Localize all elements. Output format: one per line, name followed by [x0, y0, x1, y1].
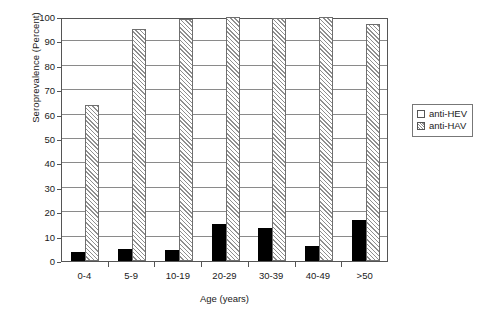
bar-anti-hav-10-19: [179, 19, 193, 261]
bar-anti-hev-30-39: [258, 228, 272, 261]
y-axis-tick-label: 70: [21, 86, 55, 95]
bar-anti-hev-20-29: [212, 224, 226, 261]
bar-series-group: [62, 19, 387, 261]
legend-label-anti-hev: anti-HEV: [429, 109, 467, 119]
y-axis-tick-label: 80: [21, 62, 55, 71]
y-axis-tick-label: 40: [21, 159, 55, 168]
x-axis-tick-mark: [201, 262, 202, 267]
y-axis-tick-label: 10: [21, 233, 55, 242]
x-axis-tick-mark: [154, 262, 155, 267]
legend: anti-HEV anti-HAV: [412, 104, 473, 137]
y-axis-tick-label: 90: [21, 37, 55, 46]
bar-anti-hav->50: [366, 24, 380, 261]
legend-swatch-icon-anti-hev: [417, 110, 425, 118]
y-axis-tick-mark: [57, 91, 61, 92]
y-axis-tick-mark: [57, 164, 61, 165]
bar-anti-hev-0-4: [71, 252, 85, 261]
chart-container: Seroprevalence (Percent) 010203040506070…: [0, 0, 490, 322]
x-axis-tick-mark: [108, 262, 109, 267]
y-axis-tick-label: 0: [21, 257, 55, 266]
bar-anti-hev-40-49: [305, 246, 319, 261]
y-axis-tick-label: 30: [21, 184, 55, 193]
bar-anti-hev-5-9: [118, 249, 132, 261]
legend-label-anti-hav: anti-HAV: [429, 121, 466, 131]
bar-anti-hev->50: [352, 220, 366, 261]
y-axis-tick-label: 60: [21, 111, 55, 120]
bar-anti-hev-10-19: [165, 250, 179, 261]
bar-anti-hav-20-29: [226, 17, 240, 261]
x-axis-tick-mark: [248, 262, 249, 267]
y-axis-tick-mark: [57, 189, 61, 190]
bar-anti-hav-40-49: [319, 17, 333, 261]
y-axis-tick-mark: [57, 42, 61, 43]
bar-anti-hav-30-39: [272, 18, 286, 261]
y-axis-tick-mark: [57, 238, 61, 239]
y-axis-tick-mark: [57, 18, 61, 19]
x-axis-tick-mark: [295, 262, 296, 267]
y-axis-tick-mark: [57, 140, 61, 141]
legend-swatch-icon-anti-hav: [417, 122, 425, 130]
x-axis-title: Age (years): [61, 293, 388, 304]
x-axis-tick-label: >50: [335, 270, 395, 281]
y-axis-tick-label: 20: [21, 208, 55, 217]
plot-area: [61, 18, 388, 262]
y-axis-title: Seroprevalence (Percent): [30, 0, 41, 158]
x-axis-tick-mark: [341, 262, 342, 267]
bar-anti-hav-5-9: [132, 29, 146, 261]
y-axis-tick-mark: [57, 213, 61, 214]
y-axis-tick-label: 50: [21, 135, 55, 144]
y-axis-tick-mark: [57, 262, 61, 263]
legend-item-anti-hav: anti-HAV: [417, 120, 467, 132]
bar-anti-hav-0-4: [85, 105, 99, 261]
y-axis-tick-mark: [57, 67, 61, 68]
y-axis-tick-label: 100: [21, 13, 55, 22]
y-axis-tick-mark: [57, 116, 61, 117]
legend-item-anti-hev: anti-HEV: [417, 108, 467, 120]
